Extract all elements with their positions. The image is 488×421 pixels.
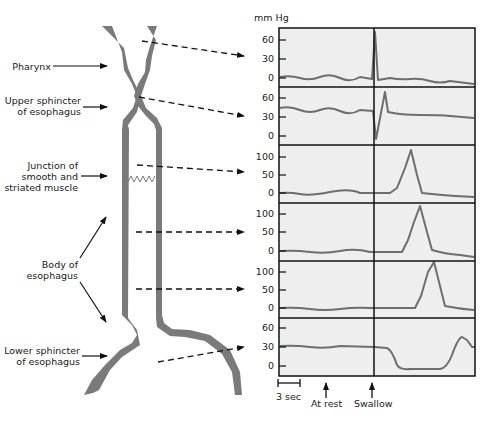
tick-label: 100	[252, 267, 274, 277]
tick-label: 100	[252, 209, 274, 219]
label-pharynx: Pharynx	[0, 61, 51, 72]
time-scale-label: 3 sec	[276, 391, 301, 402]
label-body-of-esophagus: Body of esophagus	[0, 259, 78, 281]
time-scale-bar	[278, 379, 300, 387]
label-lower-sphincter: Lower sphincter of esophagus	[0, 345, 80, 367]
label-line: Lower sphincter	[0, 345, 80, 356]
tick-label: 50	[252, 227, 274, 237]
tick-label: 100	[252, 152, 274, 162]
esophageal-manometry-figure: Pharynx Upper sphincter of esophagus Jun…	[0, 0, 488, 421]
dashed-pointer-arrows	[136, 41, 244, 362]
label-line: Upper sphincter	[0, 95, 81, 106]
tick-label: 60	[252, 93, 274, 103]
tick-label: 50	[252, 170, 274, 180]
tick-label: 0	[252, 246, 274, 256]
label-line: of esophagus	[0, 356, 80, 367]
tick-label: 50	[252, 285, 274, 295]
pressure-chart	[278, 28, 475, 398]
label-line: of esophagus	[0, 106, 81, 117]
label-line: Junction of	[0, 160, 78, 171]
label-muscle-junction: Junction of smooth and striated muscle	[0, 160, 78, 193]
tick-label: 0	[252, 131, 274, 141]
label-line: striated muscle	[0, 182, 78, 193]
at-rest-label: At rest	[311, 398, 342, 409]
label-line: esophagus	[0, 270, 78, 281]
tick-label: 60	[252, 35, 274, 45]
esophagus-illustration	[84, 26, 242, 395]
tick-label: 60	[252, 323, 274, 333]
label-upper-sphincter: Upper sphincter of esophagus	[0, 95, 81, 117]
tick-label: 30	[252, 342, 274, 352]
tick-label: 0	[252, 73, 274, 83]
label-line: Body of	[0, 259, 78, 270]
units-label: mm Hg	[254, 12, 289, 23]
tick-label: 0	[252, 303, 274, 313]
tick-label: 0	[252, 361, 274, 371]
tick-label: 0	[252, 188, 274, 198]
swallow-label: Swallow	[354, 398, 392, 409]
tick-label: 30	[252, 54, 274, 64]
label-line: smooth and	[0, 171, 78, 182]
tick-label: 30	[252, 112, 274, 122]
